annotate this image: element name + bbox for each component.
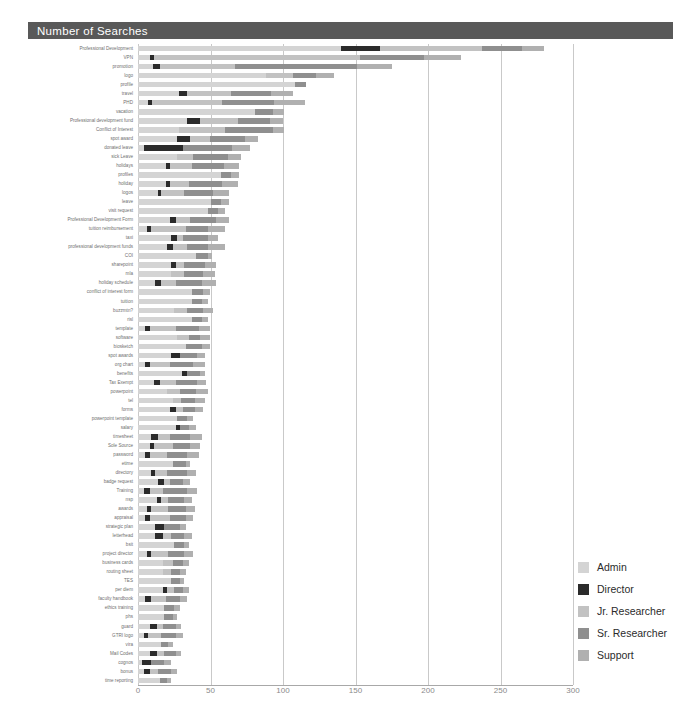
bar-segment-admin[interactable] [138, 407, 170, 413]
stacked-bar[interactable] [138, 470, 196, 476]
bar-segment-support[interactable] [176, 624, 182, 630]
bar-segment-support[interactable] [180, 569, 186, 575]
bar-segment-jr-researcher[interactable] [173, 398, 182, 404]
bar-segment-sr-researcher[interactable] [161, 642, 168, 648]
bar-segment-admin[interactable] [138, 55, 150, 61]
bar-segment-support[interactable] [208, 235, 218, 241]
bar-segment-jr-researcher[interactable] [171, 271, 184, 277]
bar-segment-support[interactable] [273, 127, 285, 133]
stacked-bar[interactable] [138, 443, 200, 449]
bar-segment-admin[interactable] [138, 569, 163, 575]
bar-segment-admin[interactable] [138, 289, 192, 295]
stacked-bar[interactable] [138, 669, 177, 675]
stacked-bar[interactable] [138, 371, 205, 377]
bar-segment-jr-researcher[interactable] [151, 596, 166, 602]
bar-segment-director[interactable] [187, 118, 200, 124]
bar-segment-admin[interactable] [138, 524, 155, 530]
bar-row[interactable]: logos [138, 190, 573, 196]
bar-segment-sr-researcher[interactable] [184, 190, 213, 196]
bar-segment-admin[interactable] [138, 118, 187, 124]
bar-segment-admin[interactable] [138, 425, 176, 431]
bar-segment-sr-researcher[interactable] [192, 317, 202, 323]
bar-row[interactable]: Mail Codes [138, 651, 573, 657]
bar-segment-support[interactable] [197, 380, 206, 386]
stacked-bar[interactable] [138, 642, 173, 648]
bar-segment-sr-researcher[interactable] [170, 479, 183, 485]
bar-segment-sr-researcher[interactable] [225, 127, 273, 133]
bar-segment-support[interactable] [171, 669, 177, 675]
bar-segment-sr-researcher[interactable] [171, 533, 184, 539]
bar-segment-admin[interactable] [138, 235, 171, 241]
bar-segment-support[interactable] [174, 605, 180, 611]
stacked-bar[interactable] [138, 434, 202, 440]
bar-segment-sr-researcher[interactable] [196, 253, 208, 259]
bar-segment-sr-researcher[interactable] [181, 398, 194, 404]
bar-segment-jr-researcher[interactable] [173, 244, 188, 250]
bar-segment-admin[interactable] [138, 506, 147, 512]
bar-segment-jr-researcher[interactable] [150, 452, 167, 458]
bar-row[interactable]: sharepoint [138, 262, 573, 268]
bar-segment-support[interactable] [187, 416, 193, 422]
bar-row[interactable]: Conflict of Interest [138, 127, 573, 133]
bar-row[interactable]: vira [138, 642, 573, 648]
bar-segment-sr-researcher[interactable] [176, 380, 198, 386]
stacked-bar[interactable] [138, 488, 197, 494]
bar-segment-jr-researcher[interactable] [176, 262, 185, 268]
bar-row[interactable]: promotion [138, 64, 573, 70]
bar-segment-jr-researcher[interactable] [152, 100, 222, 106]
bar-segment-support[interactable] [270, 118, 283, 124]
bar-row[interactable]: taxi [138, 235, 573, 241]
bar-segment-sr-researcher[interactable] [167, 452, 187, 458]
bar-segment-support[interactable] [193, 362, 205, 368]
bar-segment-admin[interactable] [138, 181, 166, 187]
bar-segment-support[interactable] [200, 335, 210, 341]
bar-segment-support[interactable] [424, 55, 462, 61]
bar-segment-director[interactable] [150, 651, 157, 657]
bar-segment-support[interactable] [183, 479, 190, 485]
bar-segment-admin[interactable] [138, 479, 158, 485]
bar-segment-sr-researcher[interactable] [161, 633, 176, 639]
bar-segment-support[interactable] [183, 587, 189, 593]
bar-segment-admin[interactable] [138, 470, 151, 476]
bar-row[interactable]: directory [138, 470, 573, 476]
bar-segment-sr-researcher[interactable] [192, 289, 204, 295]
stacked-bar[interactable] [138, 587, 189, 593]
bar-segment-sr-researcher[interactable] [210, 136, 245, 142]
bar-segment-admin[interactable] [138, 154, 177, 160]
stacked-bar[interactable] [138, 497, 192, 503]
bar-segment-support[interactable] [176, 633, 183, 639]
bar-row[interactable]: biosketch [138, 344, 573, 350]
bar-segment-support[interactable] [222, 181, 238, 187]
bar-row[interactable]: buzzmtn? [138, 308, 573, 314]
stacked-bar[interactable] [138, 389, 208, 395]
bar-segment-sr-researcher[interactable] [173, 461, 186, 467]
bar-row[interactable]: mla [138, 271, 573, 277]
bar-segment-sr-researcher[interactable] [293, 73, 316, 79]
bar-segment-admin[interactable] [138, 533, 155, 539]
bar-row[interactable]: visit request [138, 208, 573, 214]
bar-segment-sr-researcher[interactable] [173, 560, 183, 566]
bar-segment-support[interactable] [190, 443, 200, 449]
bar-row[interactable]: Tax Exempt [138, 380, 573, 386]
stacked-bar[interactable] [138, 91, 293, 97]
bar-segment-jr-researcher[interactable] [148, 633, 161, 639]
bar-segment-support[interactable] [245, 136, 258, 142]
bar-segment-admin[interactable] [138, 82, 295, 88]
bar-segment-support[interactable] [187, 470, 196, 476]
bar-segment-admin[interactable] [138, 73, 266, 79]
bar-segment-sr-researcher[interactable] [187, 308, 203, 314]
bar-row[interactable]: template [138, 326, 573, 332]
bar-segment-support[interactable] [202, 280, 217, 286]
bar-segment-support[interactable] [208, 226, 225, 232]
bar-row[interactable]: bsit [138, 542, 573, 548]
bar-segment-sr-researcher[interactable] [193, 154, 228, 160]
stacked-bar[interactable] [138, 199, 229, 205]
bar-row[interactable]: holiday [138, 181, 573, 187]
bar-segment-support[interactable] [357, 64, 392, 70]
stacked-bar[interactable] [138, 551, 193, 557]
stacked-bar[interactable] [138, 271, 215, 277]
bar-segment-jr-researcher[interactable] [177, 335, 189, 341]
bar-segment-sr-researcher[interactable] [170, 434, 190, 440]
bar-segment-admin[interactable] [138, 398, 173, 404]
bar-segment-admin[interactable] [138, 434, 151, 440]
